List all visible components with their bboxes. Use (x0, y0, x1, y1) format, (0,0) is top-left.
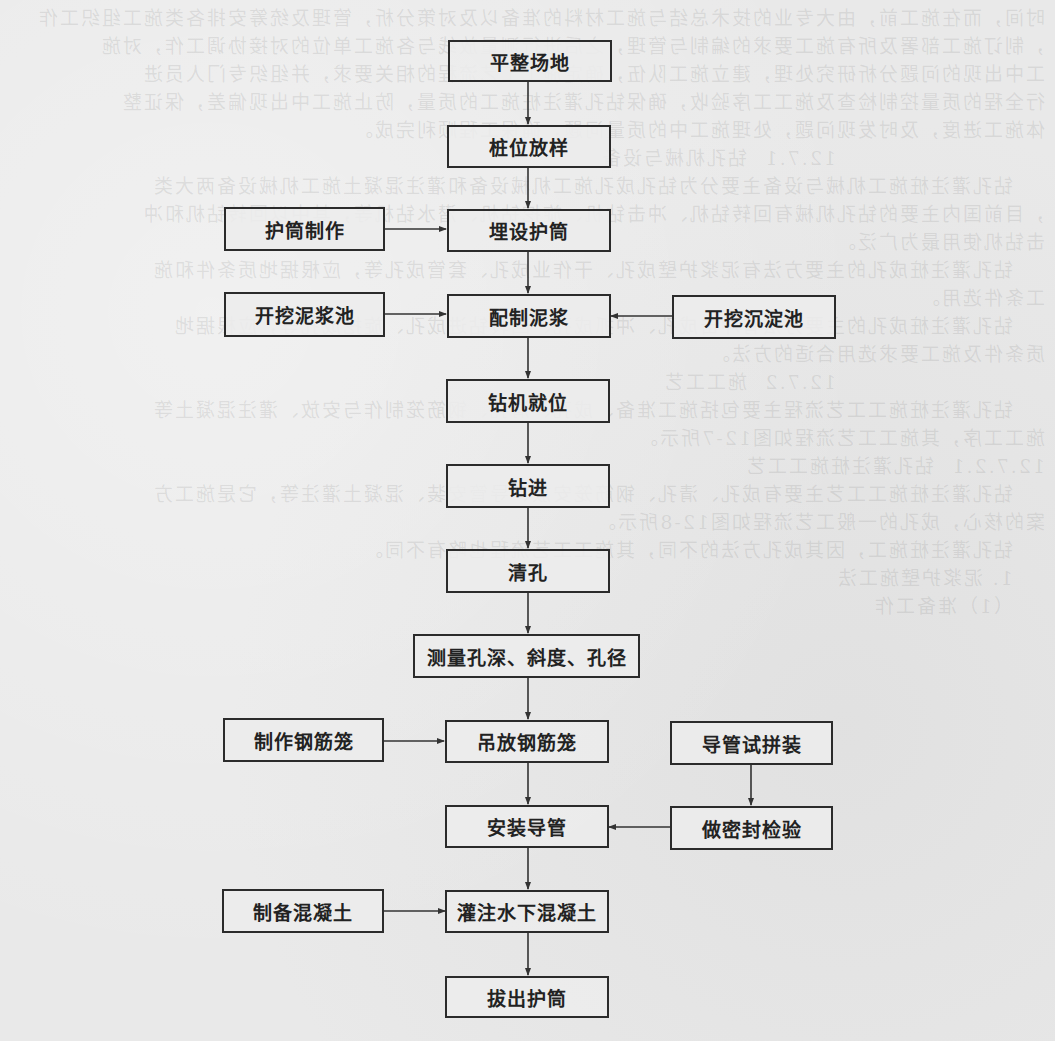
step-prepare-slurry: 配制泥浆 (447, 294, 611, 338)
step-label: 钻进 (508, 473, 548, 500)
flowchart-page: 时间，而在施工前，由大专业的技术总结与施工材料的准备以及对策分析，管理及统筹安排… (0, 0, 1055, 1041)
step-label: 安装导管 (487, 813, 567, 840)
step-label: 清孔 (508, 558, 548, 585)
step-drilling: 钻进 (446, 464, 610, 508)
side-label: 开挖泥浆池 (255, 301, 355, 328)
side-prepare-concrete: 制备混凝土 (222, 889, 384, 933)
step-label: 桩位放样 (489, 133, 569, 160)
side-label: 护筒制作 (265, 216, 345, 243)
step-measure-hole: 测量孔深、斜度、孔径 (413, 634, 640, 678)
side-trial-assemble-tremie: 导管试拼装 (670, 721, 833, 765)
step-install-tremie: 安装导管 (445, 805, 609, 848)
step-hole-cleaning: 清孔 (446, 549, 610, 593)
step-label: 埋设护筒 (489, 217, 569, 244)
side-label: 开挖沉淀池 (704, 304, 804, 331)
side-label: 做密封检验 (702, 815, 802, 842)
step-label: 平整场地 (490, 48, 570, 75)
side-make-rebar-cage: 制作钢筋笼 (223, 718, 384, 762)
step-bury-casing: 埋设护筒 (447, 209, 611, 252)
step-label: 配制泥浆 (489, 303, 569, 330)
side-label: 制备混凝土 (253, 898, 353, 925)
step-level-site: 平整场地 (448, 40, 612, 82)
step-extract-casing: 拔出护筒 (445, 976, 609, 1018)
step-rig-in-position: 钻机就位 (446, 379, 610, 423)
side-label: 导管试拼装 (702, 730, 802, 757)
step-pour-concrete: 灌注水下混凝土 (445, 890, 609, 933)
step-lower-cage: 吊放钢筋笼 (445, 720, 609, 763)
step-label: 测量孔深、斜度、孔径 (427, 643, 627, 670)
step-label: 拔出护筒 (487, 984, 567, 1011)
step-label: 吊放钢筋笼 (477, 728, 577, 755)
side-dig-settling-pit: 开挖沉淀池 (672, 295, 836, 339)
step-label: 灌注水下混凝土 (457, 898, 597, 925)
side-label: 制作钢筋笼 (254, 727, 354, 754)
step-label: 钻机就位 (488, 388, 568, 415)
side-dig-slurry-pit: 开挖泥浆池 (224, 292, 385, 337)
side-make-casing: 护筒制作 (224, 207, 385, 251)
step-pile-layout: 桩位放样 (447, 125, 611, 168)
side-seal-test: 做密封检验 (670, 806, 833, 850)
